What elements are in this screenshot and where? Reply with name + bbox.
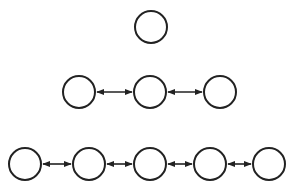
node-row-2-3 [204, 76, 236, 108]
node-row-3-3 [134, 148, 166, 180]
node-row-3-4 [194, 148, 226, 180]
node-row-2-2 [134, 76, 166, 108]
nodes-layer [9, 11, 285, 180]
node-row-2-1 [63, 76, 95, 108]
node-row-3-5 [253, 148, 285, 180]
node-row-3-1 [9, 148, 41, 180]
diagram-canvas [0, 0, 297, 191]
node-row-3-2 [73, 148, 105, 180]
node-row-1-1 [135, 11, 167, 43]
